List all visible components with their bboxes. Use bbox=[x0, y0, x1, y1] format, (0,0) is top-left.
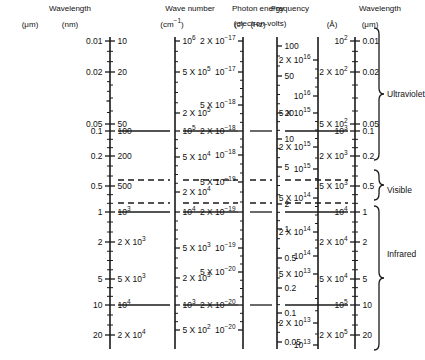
tick-label-wavelength-nm: 5 X 103 bbox=[118, 275, 146, 284]
tick-label-wavenumber-cm1: 5 X 102 bbox=[183, 326, 211, 335]
band-label-ultraviolet: Ultraviolet bbox=[387, 89, 425, 99]
tick-label-photon-energy-ev: 0.05 bbox=[285, 338, 302, 347]
tick-label-wavelength-right-um: 0.1 bbox=[363, 127, 375, 136]
tick-label-wavelength-right-um: 0.02 bbox=[363, 68, 380, 77]
tick-label-wavelength-angstrom: 105 bbox=[334, 301, 347, 310]
tick-label-photon-energy-ev: 0.5 bbox=[285, 254, 297, 263]
tick-label-wavelength-right-um: 0.01 bbox=[363, 37, 380, 46]
tick-label-photon-energy-joules: 10−17 bbox=[215, 68, 236, 77]
tick-label-wavelength-um: 10 bbox=[93, 301, 102, 310]
unit-label: (nm) bbox=[40, 20, 100, 29]
band-brace bbox=[374, 206, 384, 350]
band-brace bbox=[374, 28, 384, 160]
tick-label-photon-energy-ev: 2 bbox=[285, 200, 290, 209]
tick-label-wavelength-nm: 200 bbox=[118, 152, 132, 161]
tick-label-frequency-hz: 5 X 1014 bbox=[279, 194, 311, 203]
tick-label-wavelength-right-um: 10 bbox=[363, 301, 372, 310]
tick-label-wavelength-nm: 104 bbox=[118, 301, 131, 310]
tick-label-photon-energy-joules: 2 X 10−20 bbox=[200, 301, 236, 310]
tick-label-wavelength-um: 0.2 bbox=[91, 152, 103, 161]
tick-label-photon-energy-joules: 2 X 10−19 bbox=[200, 208, 236, 217]
tick-label-frequency-hz: 2 X 1013 bbox=[279, 319, 311, 328]
tick-label-wavenumber-cm1: 5 X 104 bbox=[183, 153, 211, 162]
band-label-visible: Visible bbox=[387, 185, 412, 195]
tick-label-photon-energy-ev: 50 bbox=[285, 72, 294, 81]
tick-label-photon-energy-joules: 5 X 10−20 bbox=[200, 268, 236, 277]
tick-label-photon-energy-ev: 5 bbox=[285, 163, 290, 172]
tick-label-photon-energy-ev: 10 bbox=[285, 135, 294, 144]
tick-label-wavelength-nm: 2 X 103 bbox=[118, 238, 146, 247]
tick-label-frequency-hz: 1016 bbox=[294, 92, 311, 101]
tick-label-wavelength-right-um: 20 bbox=[363, 331, 372, 340]
tick-label-photon-energy-joules: 5 X 10−18 bbox=[200, 101, 236, 110]
band-brace bbox=[374, 170, 384, 200]
tick-label-wavelength-nm: 10 bbox=[118, 37, 127, 46]
tick-label-wavelength-angstrom: 2 X 104 bbox=[319, 238, 347, 247]
tick-label-wavelength-um: 0.1 bbox=[91, 127, 103, 136]
unit-label: (cm−1) bbox=[142, 20, 202, 29]
tick-label-frequency-hz: 1015 bbox=[294, 165, 311, 174]
tick-label-photon-energy-ev: 0.2 bbox=[285, 284, 297, 293]
tick-label-wavelength-angstrom: 104 bbox=[334, 208, 347, 217]
tick-label-wavelength-nm: 500 bbox=[118, 182, 132, 191]
tick-label-wavelength-um: 20 bbox=[93, 331, 102, 340]
tick-label-wavelength-nm: 103 bbox=[118, 208, 131, 217]
tick-label-wavelength-nm: 100 bbox=[118, 127, 132, 136]
tick-label-wavelength-angstrom: 102 bbox=[334, 37, 347, 46]
tick-label-wavelength-um: 2 bbox=[98, 238, 103, 247]
unit-label: (μm) bbox=[340, 20, 400, 29]
tick-label-photon-energy-joules: 5 X 10−19 bbox=[200, 178, 236, 187]
tick-label-photon-energy-ev: 0.1 bbox=[285, 309, 297, 318]
tick-label-photon-energy-joules: 10−18 bbox=[215, 151, 236, 160]
tick-label-frequency-hz: 2 X 1015 bbox=[279, 143, 311, 152]
tick-label-wavenumber-cm1: 5 X 103 bbox=[183, 244, 211, 253]
band-label-infrared: Infrared bbox=[387, 249, 416, 259]
tick-label-wavelength-angstrom: 5 X 103 bbox=[319, 182, 347, 191]
tick-label-wavenumber-cm1: 5 X 105 bbox=[183, 68, 211, 77]
tick-label-photon-energy-joules: 2 X 10−17 bbox=[200, 37, 236, 46]
photon-energy-header: Photon energy bbox=[213, 4, 303, 13]
tick-label-wavelength-angstrom: 5 X 104 bbox=[319, 275, 347, 284]
tick-label-photon-energy-ev: 1 bbox=[285, 225, 290, 234]
tick-label-wavenumber-cm1: 103 bbox=[183, 301, 196, 310]
tick-label-wavelength-angstrom: 103 bbox=[334, 127, 347, 136]
tick-label-frequency-hz: 2 X 1016 bbox=[279, 56, 311, 65]
tick-label-wavelength-um: 0.02 bbox=[86, 68, 103, 77]
tick-label-wavenumber-cm1: 2 X 105 bbox=[183, 109, 211, 118]
tick-label-wavenumber-cm1: 104 bbox=[183, 208, 196, 217]
tick-label-wavenumber-cm1: 106 bbox=[183, 37, 196, 46]
tick-label-wavelength-right-um: 0.5 bbox=[363, 182, 375, 191]
tick-label-photon-energy-joules: 2 X 10−18 bbox=[200, 127, 236, 136]
tick-label-photon-energy-joules: 10−20 bbox=[215, 326, 236, 335]
tick-label-wavelength-right-um: 1 bbox=[363, 208, 368, 217]
tick-label-frequency-hz: 2 X 1014 bbox=[279, 228, 311, 237]
tick-label-wavelength-nm: 2 X 104 bbox=[118, 331, 146, 340]
tick-label-wavelength-right-um: 5 bbox=[363, 275, 368, 284]
tick-label-photon-energy-ev: 100 bbox=[285, 42, 299, 51]
tick-label-wavelength-um: 5 bbox=[98, 275, 103, 284]
tick-label-wavelength-nm: 20 bbox=[118, 68, 127, 77]
tick-label-frequency-hz: 5 X 1015 bbox=[279, 109, 311, 118]
tick-label-wavelength-angstrom: 2 X 105 bbox=[319, 331, 347, 340]
wavelength-right-header: Wavelength bbox=[335, 4, 425, 13]
tick-label-wavelength-um: 1 bbox=[98, 208, 103, 217]
tick-label-frequency-hz: 5 X 1013 bbox=[279, 270, 311, 279]
tick-label-wavelength-right-um: 0.2 bbox=[363, 152, 375, 161]
tick-label-wavelength-um: 0.01 bbox=[86, 37, 103, 46]
tick-label-wavelength-right-um: 2 bbox=[363, 238, 368, 247]
tick-label-photon-energy-joules: 10−19 bbox=[215, 244, 236, 253]
tick-label-wavenumber-cm1: 2 X 104 bbox=[183, 188, 211, 197]
tick-label-wavelength-angstrom: 2 X 102 bbox=[319, 68, 347, 77]
tick-label-photon-energy-ev: 20 bbox=[285, 109, 294, 118]
tick-label-wavelength-um: 0.5 bbox=[91, 182, 103, 191]
tick-label-wavenumber-cm1: 105 bbox=[183, 127, 196, 136]
tick-label-wavelength-angstrom: 2 X 103 bbox=[319, 152, 347, 161]
unit-label: (electron-​volts) bbox=[230, 19, 290, 28]
wavelength-header: Wavelength bbox=[25, 4, 115, 13]
